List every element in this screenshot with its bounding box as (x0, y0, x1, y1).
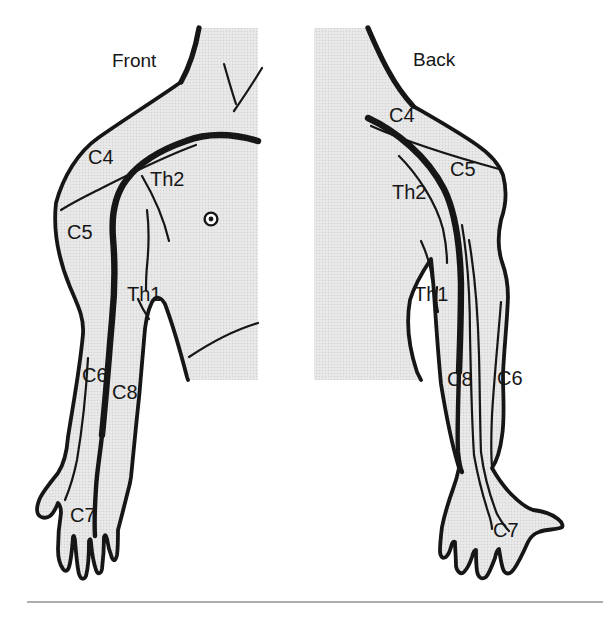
label-front-c8: C8 (112, 381, 138, 403)
back-view-title: Back (413, 49, 456, 70)
nipple-mark (205, 213, 218, 226)
label-back-th1: Th1 (414, 283, 448, 305)
dermatome-diagram-page: Front C4 Th2 C5 Th1 C6 C8 C7 Back C4 C5 … (0, 0, 610, 620)
label-front-c6: C6 (82, 364, 108, 386)
label-front-c7: C7 (70, 504, 96, 526)
label-back-c5: C5 (450, 158, 476, 180)
label-front-th2: Th2 (150, 168, 184, 190)
label-front-c4: C4 (88, 146, 114, 168)
label-front-th1: Th1 (127, 283, 161, 305)
label-back-th2: Th2 (392, 181, 426, 203)
label-back-c4: C4 (389, 104, 415, 126)
label-back-c7: C7 (493, 519, 519, 541)
front-view-title: Front (112, 50, 157, 71)
label-front-c5: C5 (67, 221, 93, 243)
label-back-c6: C6 (497, 367, 523, 389)
nipple-dot (209, 217, 214, 222)
label-back-c8: C8 (447, 368, 473, 390)
dermatome-diagram: Front C4 Th2 C5 Th1 C6 C8 C7 Back C4 C5 … (0, 0, 610, 620)
